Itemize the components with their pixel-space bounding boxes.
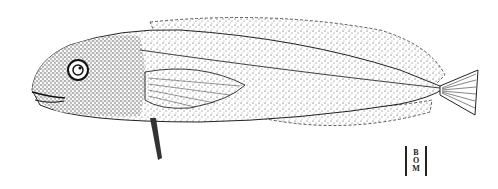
illustration-canvas: B O M xyxy=(0,0,498,189)
monogram-letter: M xyxy=(412,165,420,173)
pelvic-fin xyxy=(150,118,162,160)
artist-monogram: B O M xyxy=(405,146,427,176)
head xyxy=(32,35,145,116)
